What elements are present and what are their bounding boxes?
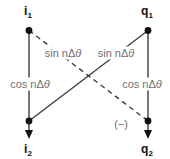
node-label-i1: i1: [24, 5, 32, 17]
edge-label-sin-left: sin nΔθ: [43, 47, 84, 60]
node-q2-dot: [145, 118, 152, 125]
edge-label-cos-right: cos nΔθ: [120, 78, 164, 91]
edge-label-cos-left: cos nΔθ: [8, 78, 52, 91]
edge-label-sin-left-text: sin nΔ: [45, 47, 76, 59]
node-q1-dot: [145, 27, 152, 34]
edge-label-sin-left-theta: θ: [75, 47, 81, 59]
node-label-i1-sub: 1: [27, 11, 31, 20]
signal-flow-diagram: i1 q1 i2 q2 sin nΔθ sin nΔθ cos nΔθ cos …: [0, 0, 170, 159]
node-label-q2: q2: [141, 143, 153, 155]
node-label-i2: i2: [24, 143, 32, 155]
edge-label-sin-right-text: sin nΔ: [98, 47, 129, 59]
edge-label-cos-left-text: cos nΔ: [10, 78, 44, 90]
node-i1-dot: [26, 27, 33, 34]
edge-label-sin-right-theta: θ: [128, 47, 134, 59]
node-label-q1: q1: [141, 5, 153, 17]
arrow-down-i2-icon: [25, 130, 33, 139]
edge-label-cos-right-theta: θ: [156, 78, 162, 90]
node-i2-dot: [26, 118, 33, 125]
edge-label-sin-right: sin nΔθ: [96, 47, 137, 60]
node-label-i2-sub: 2: [27, 149, 31, 158]
arrow-down-q2-icon: [144, 130, 152, 139]
node-label-q1-sub: 1: [148, 11, 152, 20]
edge-label-negate: (−): [112, 118, 130, 131]
node-label-q2-sub: 2: [148, 149, 152, 158]
edge-label-cos-left-theta: θ: [44, 78, 50, 90]
edge-label-cos-right-text: cos nΔ: [122, 78, 156, 90]
